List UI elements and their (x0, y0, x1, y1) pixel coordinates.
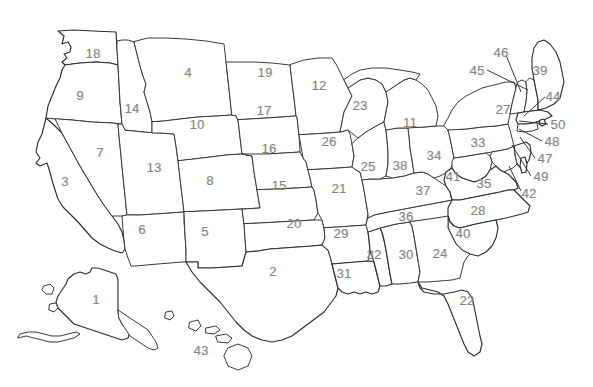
state-oregon[interactable] (46, 62, 122, 124)
state-label-delaware: 42 (522, 187, 537, 200)
state-label-maine: 39 (533, 64, 548, 77)
state-label-montana: 4 (184, 66, 191, 79)
state-label-new-hampshire: 44 (546, 90, 561, 103)
state-label-north-dakota: 19 (258, 66, 273, 79)
state-hawaii-oahu[interactable] (189, 320, 201, 331)
state-hawaii-kauai[interactable] (165, 311, 174, 320)
state-missouri[interactable] (308, 167, 368, 228)
state-rhode-island[interactable] (539, 119, 546, 126)
state-label-louisiana: 31 (337, 267, 352, 280)
state-label-colorado: 8 (206, 174, 213, 187)
state-label-rhode-island: 50 (551, 118, 566, 131)
state-label-maryland: 49 (534, 170, 549, 183)
state-label-florida: 22 (460, 294, 475, 307)
state-connecticut[interactable] (517, 123, 538, 132)
state-label-mississippi: 32 (367, 248, 382, 261)
state-label-oregon: 9 (76, 89, 83, 102)
state-label-michigan: 11 (403, 116, 417, 129)
state-label-kansas: 15 (272, 179, 287, 192)
state-label-north-carolina: 28 (471, 204, 486, 217)
state-label-california: 3 (61, 175, 68, 188)
state-alaska-islands-2[interactable] (49, 303, 58, 312)
state-label-south-carolina: 40 (456, 227, 471, 240)
state-label-wyoming: 10 (190, 118, 205, 131)
state-label-missouri: 21 (332, 182, 347, 195)
state-label-utah: 13 (147, 161, 162, 174)
state-label-pennsylvania: 33 (471, 136, 486, 149)
state-hawaii-molokai[interactable] (206, 326, 220, 334)
state-label-new-mexico: 5 (201, 225, 208, 238)
state-label-idaho: 14 (125, 102, 140, 115)
state-label-kentucky: 37 (416, 184, 431, 197)
state-label-hawaii: 43 (194, 344, 209, 357)
state-label-oklahoma: 20 (287, 217, 302, 230)
state-label-arkansas: 29 (334, 227, 349, 240)
state-arizona[interactable] (122, 212, 186, 266)
state-label-georgia: 24 (433, 247, 448, 260)
state-hawaii-big-island[interactable] (224, 344, 252, 370)
state-label-texas: 2 (269, 265, 276, 278)
state-label-vermont: 45 (470, 64, 485, 77)
state-label-iowa: 26 (322, 135, 337, 148)
state-label-new-york: 27 (496, 103, 511, 116)
state-label-new-jersey: 47 (538, 152, 553, 165)
us-states-map: 1234567891011121314151617181920212223242… (0, 0, 593, 387)
state-label-indiana: 38 (393, 159, 408, 172)
state-label-tennessee: 36 (399, 210, 414, 223)
state-colorado[interactable] (178, 154, 260, 212)
state-hawaii-maui[interactable] (216, 334, 232, 343)
state-label-virginia: 35 (477, 177, 492, 190)
state-label-vermont-alt: 46 (494, 46, 509, 59)
state-label-nebraska: 16 (262, 142, 277, 155)
state-label-arizona: 6 (138, 223, 145, 236)
state-alaska-aleutians[interactable] (18, 332, 80, 342)
state-label-washington: 18 (86, 47, 101, 60)
state-label-wisconsin: 23 (353, 99, 368, 112)
state-label-illinois: 25 (361, 160, 376, 173)
state-new-mexico[interactable] (184, 209, 246, 268)
state-montana[interactable] (134, 38, 232, 122)
state-label-minnesota: 12 (312, 79, 327, 92)
state-label-connecticut: 48 (545, 135, 560, 148)
state-label-west-virginia: 41 (446, 170, 461, 183)
state-label-south-dakota: 17 (257, 104, 272, 117)
state-massachusetts[interactable] (516, 110, 552, 124)
state-label-ohio: 34 (427, 149, 442, 162)
state-alaska-islands[interactable] (42, 284, 54, 294)
state-label-nevada: 7 (96, 146, 103, 159)
state-outlines (18, 30, 564, 370)
state-label-alaska: 1 (92, 293, 99, 306)
state-label-alabama: 30 (399, 248, 414, 261)
